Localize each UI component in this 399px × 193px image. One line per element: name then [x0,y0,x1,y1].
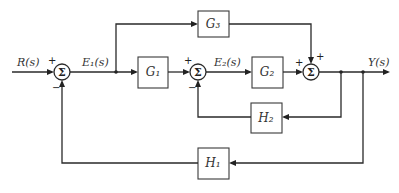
block-diagram: R(s) Σ + − E₁(s) G₃ G₁ Σ + − E₂(s) G₂ Σ … [0,0,399,193]
sigma-symbol: Σ [194,66,202,79]
input-label: R(s) [16,56,40,69]
block-g3-label: G₃ [206,17,221,31]
h2-feedback-output-wire [198,82,251,117]
e2-label: E₂(s) [213,56,241,69]
sigma-symbol: Σ [58,66,66,79]
arrow-icon [282,114,289,120]
output-label: Y(s) [368,56,390,69]
arrow-icon [229,160,236,166]
arrow-icon [308,57,314,64]
block-h2-label: H₂ [257,111,273,125]
block-g2-label: G₂ [260,65,275,79]
arrow-icon [383,69,390,75]
sum1-plus-sign: + [48,55,56,66]
block-h1-label: H₁ [204,156,220,170]
sigma-symbol: Σ [307,66,315,79]
arrow-icon [296,69,303,75]
sum3-plus-left-sign: + [295,57,303,68]
sum1-minus-sign: − [52,82,60,93]
arrow-icon [183,69,190,75]
block-g1-label: G₁ [146,65,160,79]
h1-feedback-output-wire [62,82,198,163]
arrow-icon [131,69,138,75]
arrow-icon [245,69,252,75]
arrow-icon [191,21,198,27]
sum2-plus-sign: + [184,55,192,66]
sum3-plus-top-sign: + [316,51,324,62]
e1-label: E₁(s) [81,56,109,69]
arrow-icon [47,69,54,75]
sum2-minus-sign: − [188,82,196,93]
